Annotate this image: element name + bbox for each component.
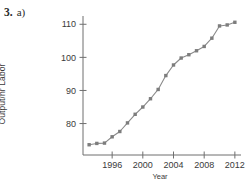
data-point	[118, 130, 121, 133]
figure: 3.a) 8090100110 19962000200420082012 Out…	[0, 0, 250, 187]
y-tick-label: 100	[61, 53, 76, 63]
data-point	[202, 45, 205, 48]
y-axis: 8090100110	[61, 16, 87, 155]
data-point	[141, 105, 144, 108]
x-tick-label: 2000	[133, 160, 153, 170]
line-chart: 8090100110 19962000200420082012 Output/h…	[0, 0, 250, 187]
y-tick-label: 80	[66, 119, 76, 129]
data-point	[179, 56, 182, 59]
data-line	[89, 22, 235, 144]
x-axis-title: Year	[80, 172, 240, 181]
data-point	[126, 121, 129, 124]
data-point	[110, 135, 113, 138]
data-point	[87, 143, 90, 146]
x-tick-label: 2004	[163, 160, 183, 170]
y-tick-label: 90	[66, 86, 76, 96]
data-point	[149, 97, 152, 100]
data-point	[210, 36, 213, 39]
data-point	[172, 63, 175, 66]
data-point	[218, 24, 221, 27]
data-point	[233, 21, 236, 24]
data-point	[195, 49, 198, 52]
x-tick-label: 1996	[102, 160, 122, 170]
x-tick-label: 2008	[194, 160, 214, 170]
x-tick-label: 2012	[225, 160, 245, 170]
x-tick-labels: 19962000200420082012	[102, 160, 245, 170]
data-point	[225, 23, 228, 26]
x-axis: 19962000200420082012	[83, 152, 245, 171]
data-point	[133, 113, 136, 116]
data-point	[156, 88, 159, 91]
y-axis-title: Output/hr Labor	[0, 44, 7, 144]
y-tick-label: 110	[62, 19, 76, 29]
data-point	[103, 141, 106, 144]
data-point	[95, 142, 98, 145]
data-point	[187, 53, 190, 56]
chart-canvas: 8090100110 19962000200420082012	[0, 0, 250, 187]
data-point	[164, 74, 167, 77]
y-tick-labels: 8090100110	[61, 19, 76, 128]
